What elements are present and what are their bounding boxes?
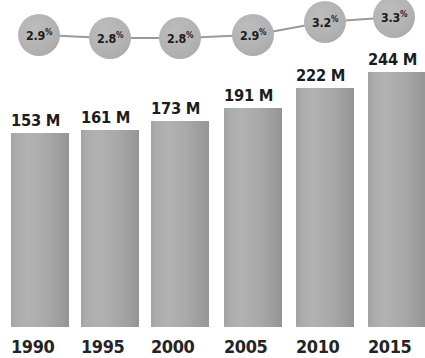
bar-chart: 153 M161 M173 M191 M222 M244 M 2.9%2.8%2…	[0, 0, 425, 358]
x-axis-labels-layer: 199019952000200520102015	[0, 0, 425, 358]
x-axis-year-label: 1995	[81, 337, 124, 357]
x-axis-year-label: 2005	[224, 337, 267, 357]
x-axis-year-label: 2000	[151, 337, 194, 357]
x-axis-year-label: 2015	[368, 337, 411, 357]
x-axis-year-label: 1990	[11, 337, 54, 357]
x-axis-year-label: 2010	[296, 337, 339, 357]
